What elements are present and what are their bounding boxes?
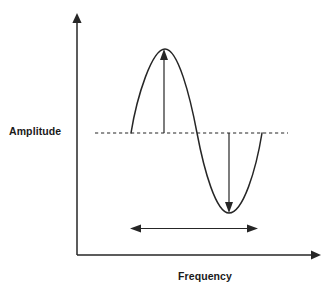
arrow-right-icon: [247, 225, 258, 233]
diagram-canvas: [0, 0, 326, 291]
arrow-right-icon: [311, 250, 321, 259]
x-axis-label: Frequency: [178, 271, 232, 282]
y-axis-label: Amplitude: [9, 126, 61, 137]
amplitude-down-annotation: [225, 133, 233, 213]
period-annotation: [130, 225, 258, 233]
amplitude-up-annotation: [160, 49, 168, 133]
waveform-curve: [131, 49, 262, 213]
x-axis: [77, 250, 321, 259]
arrow-up-icon: [72, 13, 81, 23]
arrow-down-icon: [225, 202, 233, 213]
y-axis: [72, 13, 81, 255]
arrow-left-icon: [130, 225, 141, 233]
waveform-diagram: Amplitude Frequency: [0, 0, 326, 291]
